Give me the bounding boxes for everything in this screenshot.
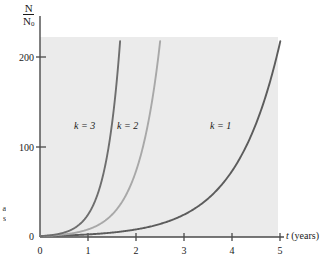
- curve-label-k2: k = 2: [117, 120, 138, 131]
- x-tick-label-1: 1: [80, 245, 96, 256]
- curve-label-k1: k = 1: [210, 120, 231, 131]
- y-axis-label-denominator: N0: [23, 15, 34, 27]
- x-tick-label-3: 3: [176, 245, 192, 256]
- y-tick-label-200: 200: [4, 52, 34, 63]
- x-tick-label-5: 5: [272, 245, 288, 256]
- x-axis-label-variable: t: [286, 230, 289, 241]
- caption-fragment-line-2: s: [0, 214, 6, 224]
- plot-canvas: [0, 0, 324, 264]
- y-axis-label: N N0: [23, 3, 34, 27]
- y-axis-label-denominator-subscript: 0: [31, 20, 35, 28]
- plot-area-background: [40, 37, 278, 237]
- y-tick-label-100: 100: [4, 142, 34, 153]
- x-tick-label-2: 2: [128, 245, 144, 256]
- y-axis-label-numerator: N: [23, 3, 34, 15]
- x-tick-label-4: 4: [224, 245, 240, 256]
- caption-fragment: a s: [0, 204, 6, 224]
- x-tick-label-0: 0: [32, 245, 48, 256]
- curve-label-k3: k = 3: [74, 120, 95, 131]
- y-tick-label-0: 0: [4, 231, 34, 242]
- x-axis-label-units: (years): [291, 230, 319, 241]
- x-axis-label: t (years): [286, 231, 319, 241]
- y-axis-label-denominator-text: N: [23, 15, 31, 27]
- exponential-growth-figure: N N0 t (years) 200 100 0 0 1 2 3 4 5 k =…: [0, 0, 324, 264]
- caption-fragment-line-1: a: [0, 204, 6, 214]
